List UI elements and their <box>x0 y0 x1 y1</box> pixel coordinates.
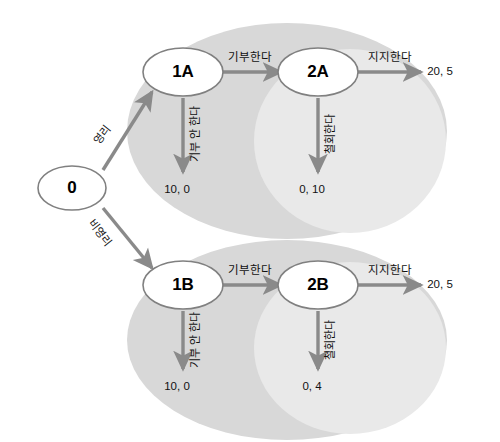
edge-label-2B-down: 철회한다 <box>321 320 337 360</box>
edge-label-2B-right: 지지한다 <box>368 261 412 277</box>
payoff-1B: 10, 0 <box>164 380 190 392</box>
edge-label-1A-down: 기부 안 한다 <box>186 106 202 162</box>
payoff-2A-right: 20, 5 <box>427 65 453 77</box>
node-label-2B: 2B <box>307 275 329 295</box>
edge-label-2A-down: 철회한다 <box>321 114 337 154</box>
edge-label-1B-down: 기부 안 한다 <box>186 312 202 368</box>
node-label-root: 0 <box>67 178 76 198</box>
payoff-2B-right: 20, 5 <box>427 278 453 290</box>
edge-label-1B-to-2B: 기부한다 <box>228 261 272 277</box>
edge-label-2A-right: 지지한다 <box>368 48 412 64</box>
node-label-1B: 1B <box>172 275 194 295</box>
node-label-2A: 2A <box>307 62 329 82</box>
payoff-2A: 0, 10 <box>299 183 325 195</box>
game-tree-canvas <box>0 0 500 442</box>
payoff-1A: 10, 0 <box>164 183 190 195</box>
edge-label-1A-to-2A: 기부한다 <box>228 48 272 64</box>
payoff-2B: 0, 4 <box>302 380 321 392</box>
node-label-1A: 1A <box>172 62 194 82</box>
